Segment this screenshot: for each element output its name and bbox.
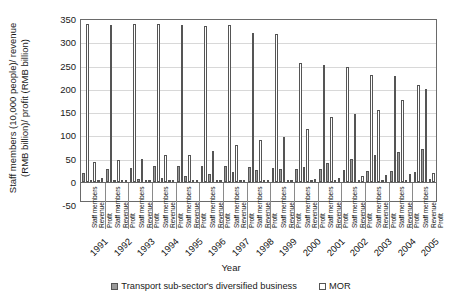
bar-revenue-mor [212,151,215,182]
bar-staff-members-transport [295,169,298,183]
bar-revenue-transport [350,159,353,182]
year-label: 2003 [372,236,394,258]
category-label-profit: Profit [270,182,279,228]
bar-revenue-mor [259,140,262,182]
bar-staff-members-mor [370,75,373,182]
group-separator [176,183,177,229]
y-tick-label: 300 [60,37,76,48]
category-label-profit: Profit [128,182,137,228]
bar-revenue-transport [255,170,258,182]
bar-revenue-transport [397,152,400,182]
year-group [294,19,318,182]
year-label: 1998 [254,236,276,258]
bar-staff-members-transport [130,168,133,182]
bar-staff-members-transport [177,166,180,182]
bar-revenue-mor [117,160,120,182]
year-group [318,19,342,182]
year-group [247,19,271,182]
category-label-profit: Profit [152,182,161,228]
year-labels: 1991199219931994199519961997199819992000… [81,231,436,259]
bar-revenue-mor [306,129,309,182]
year-label: 2000 [301,236,323,258]
year-label: 1996 [206,236,228,258]
y-tick-label: -50 [62,200,76,211]
category-label-profit: Profit [436,182,445,228]
year-label: 2001 [325,236,347,258]
year-label: 1994 [159,236,181,258]
bar-revenue-mor [330,117,333,182]
category-label-profit: Profit [341,182,350,228]
bar-series-container [81,19,436,182]
y-tick-label: 200 [60,83,76,94]
bar-staff-members-transport [106,169,109,182]
bar-revenue-mor [93,162,96,182]
y-tick-label: 0 [71,177,76,188]
bar-staff-members-mor [417,85,420,182]
year-label: 1992 [112,236,134,258]
bar-revenue-mor [141,159,144,182]
group-separator [365,183,366,229]
year-group [176,19,200,182]
bar-staff-members-mor [346,67,349,182]
year-label: 2004 [396,236,418,258]
year-label: 1991 [88,236,110,258]
year-label: 1995 [183,236,205,258]
bar-revenue-mor [401,100,404,182]
y-tick-label: 250 [60,60,76,71]
group-separator [341,183,342,229]
bar-revenue-mor [354,114,357,182]
y-tick-label: 350 [60,14,76,25]
year-group [81,19,105,182]
group-separator [152,183,153,229]
bar-revenue-mor [235,145,238,182]
group-separator [294,183,295,229]
bar-staff-members-transport [343,170,346,182]
bar-staff-members-mor [275,34,278,182]
y-axis-title-line2: (RMB billion)/ profit (RMB billion) [19,3,31,213]
year-group [270,19,294,182]
year-label: 2002 [348,236,370,258]
bar-staff-members-mor [157,24,160,182]
bar-staff-members-mor [110,25,113,182]
year-group [128,19,152,182]
year-group [365,19,389,182]
year-group [199,19,223,182]
year-group [412,19,436,182]
bar-revenue-mor [283,137,286,182]
bar-revenue-transport [232,172,235,182]
bar-revenue-transport [421,149,424,182]
bar-staff-members-mor [252,33,255,182]
bar-staff-members-transport [153,166,156,182]
group-separator [105,183,106,229]
category-labels: Staff membersRevenueProfitStaff membersR… [81,183,436,229]
group-separator [247,183,248,229]
bar-profit-mor [409,174,412,182]
category-label-profit: Profit [412,182,421,228]
bar-staff-members-transport [248,167,251,182]
bar-revenue-mor [164,155,167,182]
bar-staff-members-transport [414,172,417,182]
bar-staff-members-transport [224,166,227,182]
legend-swatch-icon-transport [111,283,118,290]
bar-staff-members-mor [86,24,89,182]
legend-item-transport: Transport sub-sector's diversified busin… [111,281,297,291]
bar-staff-members-mor [228,25,231,182]
bar-revenue-transport [303,167,306,182]
bar-revenue-transport [374,155,377,182]
bar-staff-members-mor [204,26,207,182]
group-separator [128,183,129,229]
y-tick-label: 100 [60,130,76,141]
chart-figure: Staff members (10,000 people)/ revenue (… [0,0,462,298]
x-axis-title: Year [0,262,462,273]
bar-staff-members-transport [366,171,369,182]
y-tick-label: 150 [60,107,76,118]
group-separator [318,183,319,229]
chart-legend: Transport sub-sector's diversified busin… [0,281,462,291]
bar-revenue-transport [208,174,211,182]
group-separator [412,183,413,229]
group-separator [389,183,390,229]
bar-staff-members-mor [181,25,184,182]
category-label-profit: Profit [199,182,208,228]
bar-staff-members-transport [390,171,393,182]
bar-revenue-transport [279,169,282,182]
